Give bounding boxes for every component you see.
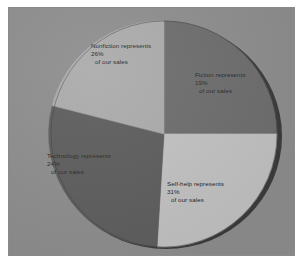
slice-label-nonfiction-percent: 26% <box>91 50 151 58</box>
slice-label-fiction-percent: 19% <box>195 79 246 87</box>
slice-label-technology-title: Technology represents <box>47 152 111 159</box>
slice-label-fiction: Fiction represents 19% of our sales <box>195 71 246 96</box>
pie-chart-figure: Nonfiction represents 26% of our sales F… <box>0 0 303 266</box>
pie-chart-area: Nonfiction represents 26% of our sales F… <box>9 8 296 257</box>
slice-label-fiction-tail: of our sales <box>195 87 246 95</box>
slice-label-selfhelp: Self-help represents 31% of our sales <box>167 180 224 205</box>
slice-label-technology-percent: 24% <box>47 160 111 168</box>
pie-chart-svg <box>9 8 296 257</box>
slice-label-nonfiction: Nonfiction represents 26% of our sales <box>91 42 151 67</box>
slice-label-selfhelp-percent: 31% <box>167 188 224 196</box>
plot-frame: Nonfiction represents 26% of our sales F… <box>8 7 295 256</box>
slice-label-fiction-title: Fiction represents <box>195 71 246 78</box>
slice-label-nonfiction-title: Nonfiction represents <box>91 42 151 49</box>
slice-label-selfhelp-tail: of our sales <box>167 196 224 204</box>
slice-label-technology-tail: of our sales <box>47 168 111 176</box>
slice-label-technology: Technology represents 24% of our sales <box>47 152 111 177</box>
slice-label-nonfiction-tail: of our sales <box>91 58 151 66</box>
slice-label-selfhelp-title: Self-help represents <box>167 180 224 187</box>
